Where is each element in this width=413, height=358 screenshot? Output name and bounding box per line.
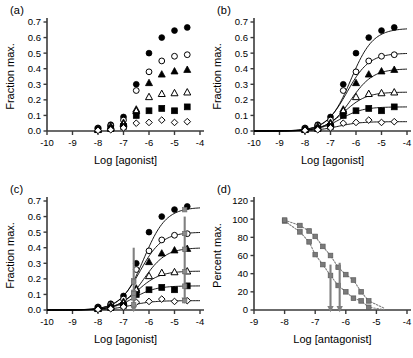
data-point-open-triangle (158, 269, 165, 275)
data-point-filled-square (146, 287, 152, 293)
x-tick-label: -9 (275, 137, 283, 148)
readout-marker (183, 208, 187, 212)
data-point-open-diamond (391, 118, 398, 125)
data-point-filled-square (133, 113, 139, 119)
y-tick-label: 120 (232, 195, 248, 206)
data-point-filled-triangle (391, 66, 398, 72)
y-tick-label: 0.1 (235, 110, 248, 121)
data-point-filled-triangle (171, 247, 178, 253)
data-point-filled-triangle (158, 250, 165, 256)
x-tick-label: -10 (40, 316, 54, 327)
data-point-filled-circle (133, 81, 139, 87)
y-tick-label: 0.6 (28, 211, 41, 222)
data-point-inhibition-curve-right (313, 234, 318, 239)
y-tick-label: 0.4 (28, 63, 41, 74)
data-point-inhibition-curve-right (359, 290, 364, 295)
data-point-open-circle (379, 53, 385, 59)
arrow-ic50-left-head (327, 306, 333, 312)
panel-c-plot: 0.00.10.20.30.40.50.60.7-10-9-8-7-6-5-4L… (0, 179, 206, 358)
x-tick-label: -6 (145, 137, 153, 148)
y-tick-label: 0.0 (28, 304, 41, 315)
y-tick-label: 0.3 (235, 79, 248, 90)
y-tick-label: 0.2 (28, 94, 41, 105)
data-point-inhibition-curve-right (298, 223, 303, 228)
arrow-ic50-right-head (336, 306, 342, 312)
y-axis-title: Fraction max. (211, 43, 223, 110)
data-point-filled-square (146, 108, 152, 114)
x-tick-label: -9 (250, 316, 258, 327)
data-point-open-diamond (146, 298, 153, 305)
x-tick-label: -6 (145, 316, 153, 327)
panel-c: (c) 0.00.10.20.30.40.50.60.7-10-9-8-7-6-… (0, 179, 206, 358)
readout-marker (132, 292, 136, 296)
data-point-open-triangle (171, 268, 178, 274)
data-point-filled-triangle (365, 71, 372, 77)
y-tick-label: 20 (237, 286, 248, 297)
y-axis-title: Percent max. (211, 223, 223, 288)
x-tick-label: -8 (301, 137, 309, 148)
data-point-inhibition-curve-left (313, 252, 318, 257)
data-point-inhibition-curve-left (298, 230, 303, 235)
readout-marker (183, 284, 187, 288)
data-point-open-circle (146, 248, 152, 254)
data-point-open-diamond (378, 119, 385, 126)
y-tick-label: 0.6 (235, 32, 248, 43)
readout-marker (183, 231, 187, 235)
data-point-open-circle (366, 58, 372, 64)
data-point-filled-circle (353, 50, 359, 56)
data-point-filled-triangle (158, 71, 165, 77)
y-tick-label: 60 (237, 250, 248, 261)
x-tick-label: -4 (403, 137, 411, 148)
data-point-open-circle (133, 88, 139, 94)
x-tick-label: -7 (311, 316, 319, 327)
y-tick-label: 0.7 (28, 16, 41, 27)
data-point-inhibition-curve-right (351, 278, 356, 283)
y-tick-label: 0.4 (235, 63, 248, 74)
y-axis-title: Fraction max. (4, 43, 16, 110)
data-point-filled-triangle (378, 68, 385, 74)
x-tick-label: -4 (196, 316, 204, 327)
data-point-filled-square (366, 106, 372, 112)
data-point-inhibition-curve-right (321, 244, 326, 249)
data-point-filled-square (379, 108, 385, 114)
data-point-filled-circle (159, 214, 165, 220)
data-point-filled-square (172, 108, 178, 114)
data-point-filled-square (184, 104, 190, 110)
readout-marker (183, 299, 187, 303)
x-tick-label: -4 (403, 316, 411, 327)
data-point-filled-square (391, 104, 397, 110)
x-tick-label: -8 (94, 137, 102, 148)
y-tick-label: 0.7 (235, 16, 248, 27)
data-point-filled-circle (366, 35, 372, 41)
x-tick-label: -5 (372, 316, 380, 327)
panel-b: (b) 0.00.10.20.30.40.50.60.7-10-9-8-7-6-… (207, 0, 413, 179)
y-tick-label: 0.3 (28, 258, 41, 269)
data-point-open-triangle (391, 89, 398, 95)
figure-container: (a) 0.00.10.20.30.40.50.60.7-10-9-8-7-6-… (0, 0, 413, 358)
data-point-open-diamond (184, 118, 191, 125)
x-tick-label: -7 (119, 316, 127, 327)
readout-marker (183, 269, 187, 273)
data-point-inhibition-curve-left (366, 305, 371, 310)
data-point-filled-square (159, 285, 165, 291)
x-tick-label: -10 (247, 137, 261, 148)
y-tick-label: 0.7 (28, 195, 41, 206)
data-point-open-triangle (378, 89, 385, 95)
x-tick-label: -8 (280, 316, 288, 327)
data-point-inhibition-curve-left (307, 240, 312, 245)
x-tick-label: -6 (352, 137, 360, 148)
data-point-open-circle (184, 52, 190, 58)
data-point-open-circle (353, 69, 359, 75)
y-tick-label: 0.5 (28, 48, 41, 59)
data-point-open-triangle (146, 93, 153, 99)
y-tick-label: 80 (237, 232, 248, 243)
y-tick-label: 0.2 (28, 273, 41, 284)
data-point-filled-circle (159, 35, 165, 41)
readout-marker (183, 247, 187, 251)
data-point-open-diamond (158, 117, 165, 124)
x-axis-title: Log [antagonist] (293, 333, 371, 345)
data-point-filled-triangle (171, 68, 178, 74)
data-point-open-triangle (184, 89, 191, 95)
data-point-open-diamond (133, 120, 140, 127)
data-point-open-circle (146, 69, 152, 75)
